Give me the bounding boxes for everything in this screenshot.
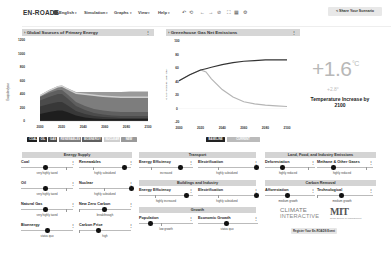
caret-down-icon: ▾ — [106, 11, 108, 15]
caret-down-icon: ▾ — [168, 11, 170, 15]
legend-new-zero[interactable]: NEW ZERO — [121, 137, 137, 142]
slider-thumb[interactable] — [184, 193, 189, 198]
slider-thumb[interactable] — [148, 221, 153, 226]
y-axis-label: Exajoules/year — [6, 83, 10, 100]
menu-help[interactable]: Help▾ — [158, 10, 170, 15]
slider-menu-icon[interactable]: ⋮ — [254, 216, 258, 221]
slider-thumb[interactable] — [102, 207, 107, 212]
slider-thumb[interactable] — [331, 165, 336, 170]
slider-technological[interactable]: Technological ⋮ medium growth — [317, 188, 373, 206]
slider-menu-icon[interactable]: ⋮ — [369, 188, 373, 193]
share-scenario-button[interactable]: < Share Your Scenario — [328, 7, 382, 16]
slider-buildings-electrification[interactable]: Electrification ⋮ highly subsidized — [198, 188, 258, 206]
menu-graphs[interactable]: Graphs▾ — [114, 10, 132, 15]
slider-menu-icon[interactable]: ⋮ — [189, 188, 193, 193]
legend-renewables[interactable]: RENEWABLES — [59, 137, 81, 142]
slider-buildings-efficiency[interactable]: Energy Efficiency ⋮ highly increased — [139, 188, 193, 206]
section-land-food-industry: Land, Food, and Industry Emissions — [265, 152, 376, 158]
line-baseline — [179, 60, 287, 81]
menu-simulation[interactable]: Simulation▾ — [84, 10, 108, 15]
mit-logo[interactable]: MIT — [330, 206, 349, 217]
legend-oil[interactable]: OIL — [39, 137, 47, 142]
slider-thumb[interactable] — [339, 193, 344, 198]
back-icon[interactable]: ← — [200, 9, 206, 15]
slider-menu-icon[interactable]: ⋮ — [311, 188, 315, 193]
legend-gas[interactable]: GAS — [48, 137, 57, 142]
legend-coal[interactable]: COAL — [27, 137, 37, 142]
slider-nuclear[interactable]: Nuclear ⋮ highly subsidized — [79, 181, 133, 199]
slider-thumb[interactable] — [45, 228, 50, 233]
slider-renewables[interactable]: Renewables ⋮ highly subsidized — [79, 160, 131, 178]
menu-view[interactable]: View▾ — [138, 10, 150, 15]
slider-menu-icon[interactable]: ⋮ — [71, 202, 75, 207]
slider-menu-icon[interactable]: ⋮ — [71, 160, 75, 165]
slider-thumb[interactable] — [285, 193, 290, 198]
slider-afforestation[interactable]: Afforestation ⋮ medium growth — [265, 188, 315, 206]
slider-thumb[interactable] — [254, 193, 259, 198]
mit-sloan-label: Sloan School of Management — [330, 217, 361, 220]
svg-text:0: 0 — [176, 107, 178, 111]
slider-thumb[interactable] — [254, 165, 259, 170]
settings-icon[interactable]: ⚙ — [243, 9, 248, 15]
reset-icon[interactable]: ⊘ — [217, 9, 222, 15]
slider-carbon-price[interactable]: Carbon Price ⋮ high — [79, 223, 131, 241]
slider-menu-icon[interactable]: ⋮ — [129, 223, 133, 228]
svg-text:200: 200 — [20, 106, 26, 110]
slider-thumb[interactable] — [96, 228, 101, 233]
graph-header-primary-energy[interactable]: › Global Sources of Primary Energy ⋮ — [22, 29, 154, 36]
y-axis-ticks: 1200 1000 800 600 400 200 0 — [18, 38, 25, 123]
slider-thumb[interactable] — [43, 186, 48, 191]
table-icon[interactable]: ▦ — [234, 9, 240, 15]
slider-transport-efficiency[interactable]: Energy Efficiency ⋮ increased — [139, 160, 193, 178]
slider-thumb[interactable] — [280, 165, 285, 170]
graph-menu-icon[interactable]: ⋮ — [146, 29, 150, 36]
slider-menu-icon[interactable]: ⋮ — [369, 160, 373, 165]
legend-current-scenario[interactable]: CURRENT SCENARIO — [227, 137, 260, 142]
undo-icon[interactable]: ↶ — [182, 9, 187, 15]
x-axis-ticks: 2000 2020 2040 2060 2080 2100 — [36, 125, 151, 129]
slider-thumb[interactable] — [43, 207, 48, 212]
register-event-button[interactable]: Register Your En-ROADS Event — [291, 228, 337, 234]
slider-population[interactable]: Population ⋮ low growth — [139, 216, 193, 234]
slider-bioenergy[interactable]: Bioenergy ⋮ status quo — [21, 223, 73, 241]
slider-menu-icon[interactable]: ⋮ — [71, 181, 75, 186]
slider-new-zero-carbon[interactable]: New Zero Carbon ⋮ breakthrough — [79, 202, 131, 220]
compare-icon[interactable]: ⛶ — [227, 9, 232, 16]
temperature-label: Temperature Increase by 2100 — [307, 96, 373, 108]
menu-language[interactable]: English▾ — [53, 10, 77, 15]
svg-text:100: 100 — [174, 39, 180, 43]
slider-menu-icon[interactable]: ⋮ — [311, 160, 315, 165]
graph-header-ghg-emissions[interactable]: › Greenhouse Gas Net Emissions ⋮ — [166, 29, 300, 36]
slider-coal[interactable]: Coal ⋮ very highly taxed — [21, 160, 73, 178]
forward-icon[interactable]: → — [208, 9, 214, 15]
slider-menu-icon[interactable]: ⋮ — [189, 160, 193, 165]
svg-text:600: 600 — [20, 79, 26, 83]
slider-menu-icon[interactable]: ⋮ — [129, 160, 133, 165]
slider-menu-icon[interactable]: ⋮ — [189, 216, 193, 221]
slider-deforestation[interactable]: Deforestation ⋮ highly reduced — [265, 160, 315, 178]
svg-text:1000: 1000 — [18, 52, 25, 56]
legend-baseline[interactable]: BASELINE — [206, 137, 225, 142]
baseline-temperature: +2.8° — [327, 86, 339, 92]
redo-icon[interactable]: ⟲ — [189, 9, 194, 15]
slider-thumb[interactable] — [178, 165, 183, 170]
caret-down-icon: ▾ — [75, 11, 77, 15]
slider-menu-icon[interactable]: ⋮ — [71, 223, 75, 228]
svg-text:2080: 2080 — [123, 125, 130, 129]
slider-methane[interactable]: Methane & Other Gases ⋮ highly reduced — [317, 160, 373, 178]
slider-oil[interactable]: Oil ⋮ very highly taxed — [21, 181, 73, 199]
slider-natural-gas[interactable]: Natural Gas ⋮ very highly taxed — [21, 202, 73, 220]
legend-bioenergy[interactable]: BIOENERGY — [82, 137, 102, 142]
slider-thumb[interactable] — [43, 165, 48, 170]
slider-thumb[interactable] — [129, 186, 134, 191]
slider-economic-growth[interactable]: Economic Growth ⋮ status quo — [198, 216, 258, 234]
slider-transport-electrification[interactable]: Electrification ⋮ highly subsidized — [198, 160, 258, 178]
section-growth: Growth — [139, 207, 256, 213]
slider-thumb[interactable] — [122, 165, 127, 170]
climate-interactive-logo[interactable]: CLIMATE INTERACTIVE — [280, 207, 319, 219]
slider-menu-icon[interactable]: ⋮ — [129, 202, 133, 207]
slider-thumb[interactable] — [224, 221, 229, 226]
svg-text:2060: 2060 — [101, 125, 108, 129]
legend-nuclear[interactable]: NUCLEAR — [104, 137, 120, 142]
graph-menu-icon[interactable]: ⋮ — [292, 29, 296, 36]
